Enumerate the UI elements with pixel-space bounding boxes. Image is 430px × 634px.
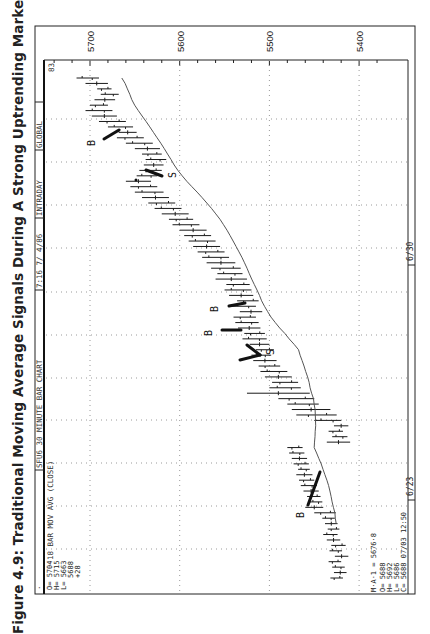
top-quote-block: O= 5704 H= 5715 L= 5663 5688 +28 [46, 560, 82, 590]
date-label-6-30: 6/30 [406, 242, 415, 261]
last-close: C= 5688 07/03 12:50 [400, 512, 408, 592]
date-labels: 6/23 6/30 [406, 242, 415, 496]
buy-signal-1-marker [308, 472, 320, 505]
corner-number: 83 [47, 63, 56, 72]
quote-change: +28 [74, 565, 82, 578]
signal-label-b2: B [203, 330, 214, 336]
svg-text:5700: 5700 [85, 31, 96, 52]
moving-average-line [122, 78, 336, 524]
signal-label-s2: S [167, 172, 178, 178]
header-dot: · [35, 585, 44, 590]
signal-label-b3: B [209, 306, 220, 312]
study-label: 18 BAR MOV AVG (CLOSE) [46, 461, 55, 560]
sell-signal-2-marker [146, 170, 162, 176]
header-global: GLOBAL [35, 120, 44, 148]
buy-signal-3-marker [229, 303, 245, 306]
signal-label-s1: S [265, 349, 276, 355]
ma-value: M·A·1 = 5676·8 [370, 533, 378, 592]
price-labels: 5700560055005400 [85, 31, 365, 52]
buy-signal-4-marker [104, 130, 119, 139]
dot-marker [135, 179, 138, 182]
header-instrument: SFU6 30 MINUTE BAR CHART [35, 359, 44, 468]
bottom-quote-block: M·A·1 = 5676·8 O= 5688 H= 5692 L= 5686 C… [370, 512, 408, 592]
svg-text:5600: 5600 [175, 31, 186, 52]
date-axis [408, 265, 415, 500]
header-intraday: INTRADAY [35, 179, 44, 216]
signal-label-b4: B [86, 140, 97, 146]
header-time: 7:16 7/ 4/86 [35, 233, 44, 288]
chart-header: SFU6 30 MINUTE BAR CHART 7:16 7/ 4/86 IN… [35, 120, 44, 590]
svg-text:5500: 5500 [264, 31, 275, 52]
svg-text:5400: 5400 [354, 31, 365, 52]
sell-signal-1-marker-b [240, 355, 260, 360]
date-label-6-23: 6/23 [406, 477, 415, 496]
outer-frame [35, 26, 415, 594]
gridlines [46, 60, 407, 594]
price-axis-ticks [54, 60, 377, 66]
signal-labels: B S B B S B [86, 140, 306, 518]
signal-label-b1: B [295, 512, 306, 518]
